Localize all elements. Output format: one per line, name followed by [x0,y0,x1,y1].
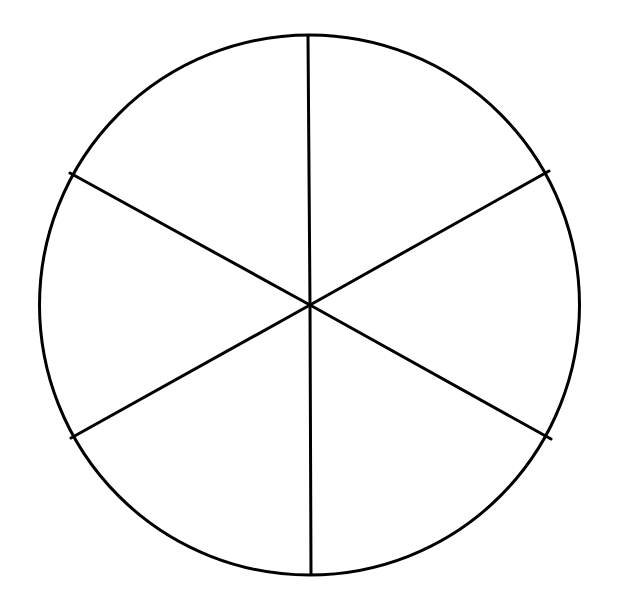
spoke-bottom [310,305,311,574]
sector-diagram [0,0,620,613]
spoke-top [308,36,310,305]
